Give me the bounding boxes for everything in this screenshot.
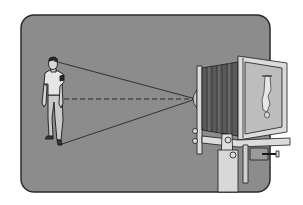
camera-diagram: [0, 0, 303, 205]
